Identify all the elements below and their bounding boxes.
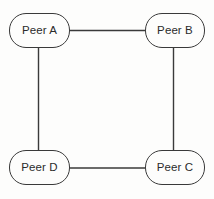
node-peer-b-label: Peer B (157, 25, 193, 37)
node-peer-c-label: Peer C (157, 162, 193, 174)
node-peer-d[interactable]: Peer D (9, 150, 70, 185)
node-peer-c[interactable]: Peer C (145, 150, 205, 185)
node-peer-a[interactable]: Peer A (9, 13, 70, 48)
diagram-canvas: Peer A Peer B Peer C Peer D (0, 0, 214, 199)
node-peer-a-label: Peer A (22, 25, 57, 37)
node-peer-d-label: Peer D (21, 162, 57, 174)
node-peer-b[interactable]: Peer B (145, 13, 205, 48)
